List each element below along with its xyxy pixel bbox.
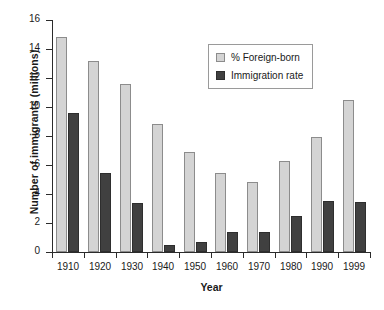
y-tick-label: 6 xyxy=(0,158,40,169)
bar-group xyxy=(84,20,116,252)
bar-1960-series0 xyxy=(215,173,226,252)
y-tick-label: 14 xyxy=(0,42,40,53)
x-tick-label-1999: 1999 xyxy=(331,261,377,272)
bar-1990-series1 xyxy=(323,201,334,252)
bar-1940-series1 xyxy=(164,245,175,252)
y-tick-label: 16 xyxy=(0,13,40,24)
x-tick xyxy=(243,253,244,258)
bar-1940-series0 xyxy=(152,124,163,252)
bar-1910-series0 xyxy=(56,37,67,252)
bar-1999-series0 xyxy=(343,100,354,252)
x-tick xyxy=(370,253,371,258)
bar-1970-series1 xyxy=(259,232,270,252)
bar-chart: Number of immigrants (millions) 02468101… xyxy=(0,0,384,310)
bar-group xyxy=(147,20,179,252)
bar-1930-series0 xyxy=(120,84,131,252)
legend-label: Immigration rate xyxy=(231,70,303,81)
x-tick xyxy=(275,253,276,258)
bar-1980-series0 xyxy=(279,161,290,252)
bar-1950-series1 xyxy=(196,242,207,252)
legend-item-0: % Foreign-born xyxy=(216,50,303,65)
y-tick-label: 2 xyxy=(0,216,40,227)
bar-1910-series1 xyxy=(68,113,79,252)
bar-group xyxy=(116,20,148,252)
y-tick-label: 4 xyxy=(0,187,40,198)
x-tick xyxy=(211,253,212,258)
x-tick xyxy=(116,253,117,258)
bar-group xyxy=(338,20,370,252)
y-tick-label: 12 xyxy=(0,71,40,82)
legend-swatch-icon xyxy=(216,53,225,62)
x-tick xyxy=(147,253,148,258)
bar-1920-series1 xyxy=(100,173,111,252)
legend-label: % Foreign-born xyxy=(231,52,300,63)
x-tick xyxy=(338,253,339,258)
bar-1990-series0 xyxy=(311,137,322,252)
bar-1960-series1 xyxy=(227,232,238,252)
bar-1920-series0 xyxy=(88,61,99,252)
bar-1950-series0 xyxy=(184,152,195,252)
legend-item-1: Immigration rate xyxy=(216,68,303,83)
x-tick xyxy=(306,253,307,258)
x-tick xyxy=(179,253,180,258)
bar-1999-series1 xyxy=(355,202,366,252)
bar-group xyxy=(52,20,84,252)
bar-1980-series1 xyxy=(291,216,302,252)
chart-legend: % Foreign-bornImmigration rate xyxy=(208,44,313,89)
y-tick-label: 10 xyxy=(0,100,40,111)
x-axis-title: Year xyxy=(52,281,371,293)
y-tick-label: 0 xyxy=(0,245,40,256)
legend-swatch-icon xyxy=(216,71,225,80)
x-tick xyxy=(52,253,53,258)
bar-group xyxy=(179,20,211,252)
y-tick-label: 8 xyxy=(0,129,40,140)
x-tick xyxy=(84,253,85,258)
bar-1930-series1 xyxy=(132,203,143,252)
bar-1970-series0 xyxy=(247,182,258,252)
